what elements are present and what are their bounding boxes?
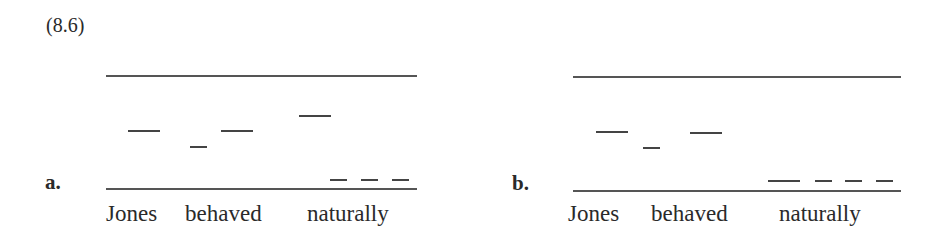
pitch-segment xyxy=(190,146,207,148)
pitch-segment-dash xyxy=(815,180,832,182)
pitch-segment xyxy=(128,130,160,132)
baseline xyxy=(573,190,901,192)
pitch-segment-dash xyxy=(330,179,347,181)
pitch-segment xyxy=(221,130,253,132)
word-naturally: naturally xyxy=(779,200,861,228)
top-line xyxy=(573,76,901,78)
word-jones: Jones xyxy=(106,200,157,228)
example-number: (8.6) xyxy=(46,12,84,38)
panel-label: b. xyxy=(512,171,529,195)
baseline xyxy=(106,188,417,190)
pitch-segment-dash xyxy=(361,179,378,181)
word-behaved: behaved xyxy=(185,200,262,228)
panel-label: a. xyxy=(45,170,61,194)
pitch-segment xyxy=(299,115,331,117)
pitch-segment xyxy=(596,131,628,133)
word-naturally: naturally xyxy=(307,200,389,228)
pitch-segment-dash xyxy=(876,180,893,182)
pitch-segment xyxy=(643,147,660,149)
pitch-segment-dash xyxy=(392,179,409,181)
pitch-segment-dash xyxy=(845,180,862,182)
pitch-segment xyxy=(690,132,722,134)
word-behaved: behaved xyxy=(651,200,728,228)
top-line xyxy=(106,75,417,77)
word-jones: Jones xyxy=(568,200,619,228)
pitch-segment xyxy=(768,180,800,182)
